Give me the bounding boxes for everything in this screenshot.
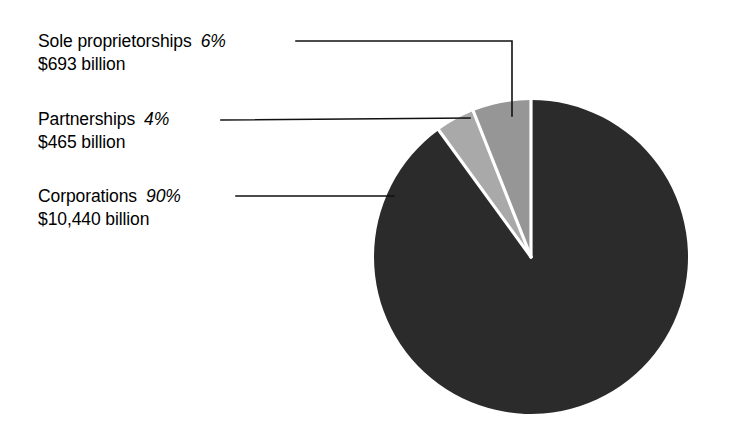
callout-sole-percent: 6% [201, 31, 226, 51]
pie-chart-figure: Sole proprietorships6% $693 billion Part… [0, 0, 729, 435]
leader-line-partnerships [221, 118, 470, 120]
callout-line-partnerships-name-percent: Partnerships4% [38, 108, 169, 131]
callout-partnerships-percent: 4% [144, 109, 169, 129]
callout-corporations-percent: 90% [146, 186, 181, 206]
callout-line-sole-name-percent: Sole proprietorships6% [38, 30, 226, 53]
callout-corporations-name: Corporations [38, 186, 137, 206]
callout-sole-amount: $693 billion [38, 53, 226, 76]
callout-label-partnerships: Partnerships4% $465 billion [38, 108, 169, 154]
callout-label-sole-proprietorships: Sole proprietorships6% $693 billion [38, 30, 226, 76]
callout-corporations-amount: $10,440 billion [38, 208, 181, 231]
callout-sole-name: Sole proprietorships [38, 31, 192, 51]
callout-partnerships-name: Partnerships [38, 109, 135, 129]
callout-partnerships-amount: $465 billion [38, 131, 169, 154]
callout-line-corporations-name-percent: Corporations90% [38, 185, 181, 208]
leader-line-sole-proprietorships [296, 41, 512, 116]
callout-label-corporations: Corporations90% $10,440 billion [38, 185, 181, 231]
